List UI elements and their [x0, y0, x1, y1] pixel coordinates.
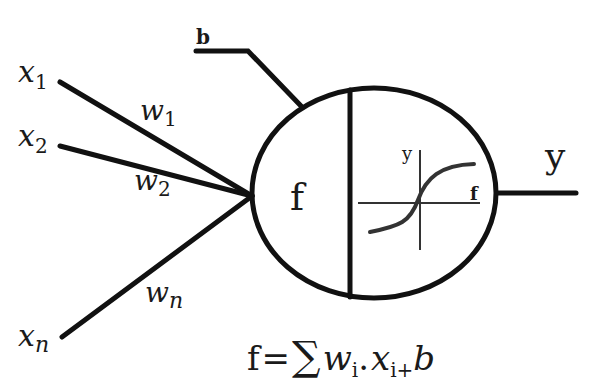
- input-label-x1: x1: [18, 54, 48, 94]
- input-edge-n: [62, 196, 252, 337]
- weight-label-wn: wn: [145, 276, 183, 313]
- weight-label-w1: w1: [140, 94, 177, 131]
- bias-edge: [196, 51, 302, 107]
- bias-label: b: [196, 25, 210, 49]
- activation-x-label: f: [470, 183, 479, 204]
- neuron-diagram: x1 x2 xn w1 w2 wn b f y f y f=∑wi.xi+b: [0, 0, 593, 388]
- activation-y-label: y: [401, 143, 413, 164]
- input-label-x2: x2: [18, 118, 48, 158]
- weight-label-w2: w2: [134, 164, 171, 201]
- sum-label: f: [290, 175, 307, 219]
- formula: f=∑wi.xi+b: [247, 333, 435, 382]
- sigmoid-curve: [370, 164, 474, 232]
- neuron-body: [252, 88, 496, 298]
- input-label-xn: xn: [18, 318, 49, 357]
- output-label: y: [544, 135, 566, 176]
